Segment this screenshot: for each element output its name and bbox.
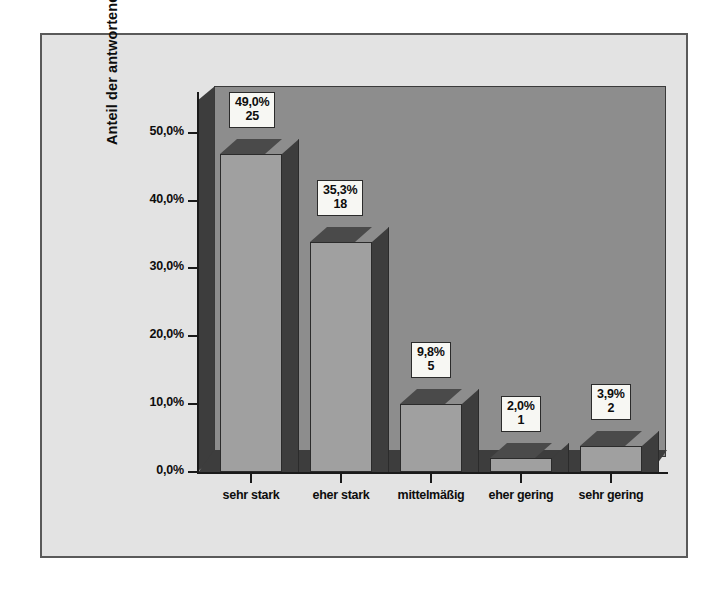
data-label-eher-gering: 2,0% 1 (501, 396, 541, 432)
bar-side-face (282, 139, 299, 472)
y-axis-title: Anteil der antwortenden Mitarbeiter (104, 0, 120, 145)
y-axis-line (197, 92, 199, 474)
y-tick-0: 0,0% (188, 471, 198, 473)
y-tick-10: 10,0% (188, 403, 198, 405)
data-label-count: 25 (235, 109, 269, 123)
data-label-count: 2 (597, 401, 625, 415)
bar-top-face (580, 431, 642, 446)
bar-eher-gering[interactable] (490, 443, 552, 472)
data-label-count: 18 (323, 197, 357, 211)
bar-top-face (220, 139, 282, 154)
y-tick-label: 40,0% (150, 192, 184, 206)
y-tick-40: 40,0% (188, 200, 198, 202)
bar-front-face (220, 154, 282, 472)
bar-sehr-gering[interactable] (580, 431, 642, 472)
x-tick-5 (610, 474, 612, 483)
data-label-percent: 35,3% (323, 183, 357, 197)
bar-front-face (580, 446, 642, 472)
data-label-percent: 3,9% (597, 387, 625, 401)
data-label-sehr-stark: 49,0% 25 (229, 92, 275, 128)
chart-figure: 49,0% 25 35,3% 18 9,8% 5 2,0% 1 3,9% 2 (0, 0, 721, 595)
x-tick-3 (430, 474, 432, 483)
data-label-percent: 9,8% (417, 345, 445, 359)
bar-eher-stark[interactable] (310, 227, 372, 472)
x-tick-label-eher-gering: eher gering (489, 488, 554, 502)
bar-top-face (310, 227, 372, 242)
x-tick-1 (250, 474, 252, 483)
y-tick-label: 50,0% (150, 124, 184, 138)
bar-mittelmaessig[interactable] (400, 389, 462, 472)
data-label-percent: 2,0% (507, 399, 535, 413)
y-tick-label: 20,0% (150, 327, 184, 341)
data-label-sehr-gering: 3,9% 2 (591, 384, 631, 420)
chart-canvas: 49,0% 25 35,3% 18 9,8% 5 2,0% 1 3,9% 2 (40, 33, 688, 558)
x-tick-label-eher-stark: eher stark (313, 488, 370, 502)
data-label-eher-stark: 35,3% 18 (317, 180, 363, 216)
bar-front-face (400, 404, 462, 472)
y-tick-label: 10,0% (150, 395, 184, 409)
bar-side-face (372, 227, 389, 472)
x-tick-2 (340, 474, 342, 483)
x-axis-line (197, 472, 668, 474)
bar-top-face (400, 389, 462, 404)
plot-side-wall (197, 86, 215, 472)
x-tick-label-mittelmaessig: mittelmäßig (398, 488, 465, 502)
bar-top-face (490, 443, 552, 458)
plot-area-3d: 49,0% 25 35,3% 18 9,8% 5 2,0% 1 3,9% 2 (157, 80, 632, 505)
y-tick-30: 30,0% (188, 267, 198, 269)
data-label-count: 5 (417, 359, 445, 373)
data-label-percent: 49,0% (235, 95, 269, 109)
x-tick-label-sehr-gering: sehr gering (579, 488, 644, 502)
data-label-count: 1 (507, 413, 535, 427)
bar-front-face (310, 242, 372, 472)
bar-sehr-stark[interactable] (220, 139, 282, 472)
y-tick-20: 20,0% (188, 335, 198, 337)
x-tick-label-sehr-stark: sehr stark (223, 488, 280, 502)
data-label-mittelmaessig: 9,8% 5 (411, 342, 451, 378)
x-tick-4 (520, 474, 522, 483)
y-tick-label: 30,0% (150, 259, 184, 273)
bar-front-face (490, 458, 552, 472)
y-tick-label: 0,0% (156, 463, 184, 477)
y-tick-50: 50,0% (188, 132, 198, 134)
